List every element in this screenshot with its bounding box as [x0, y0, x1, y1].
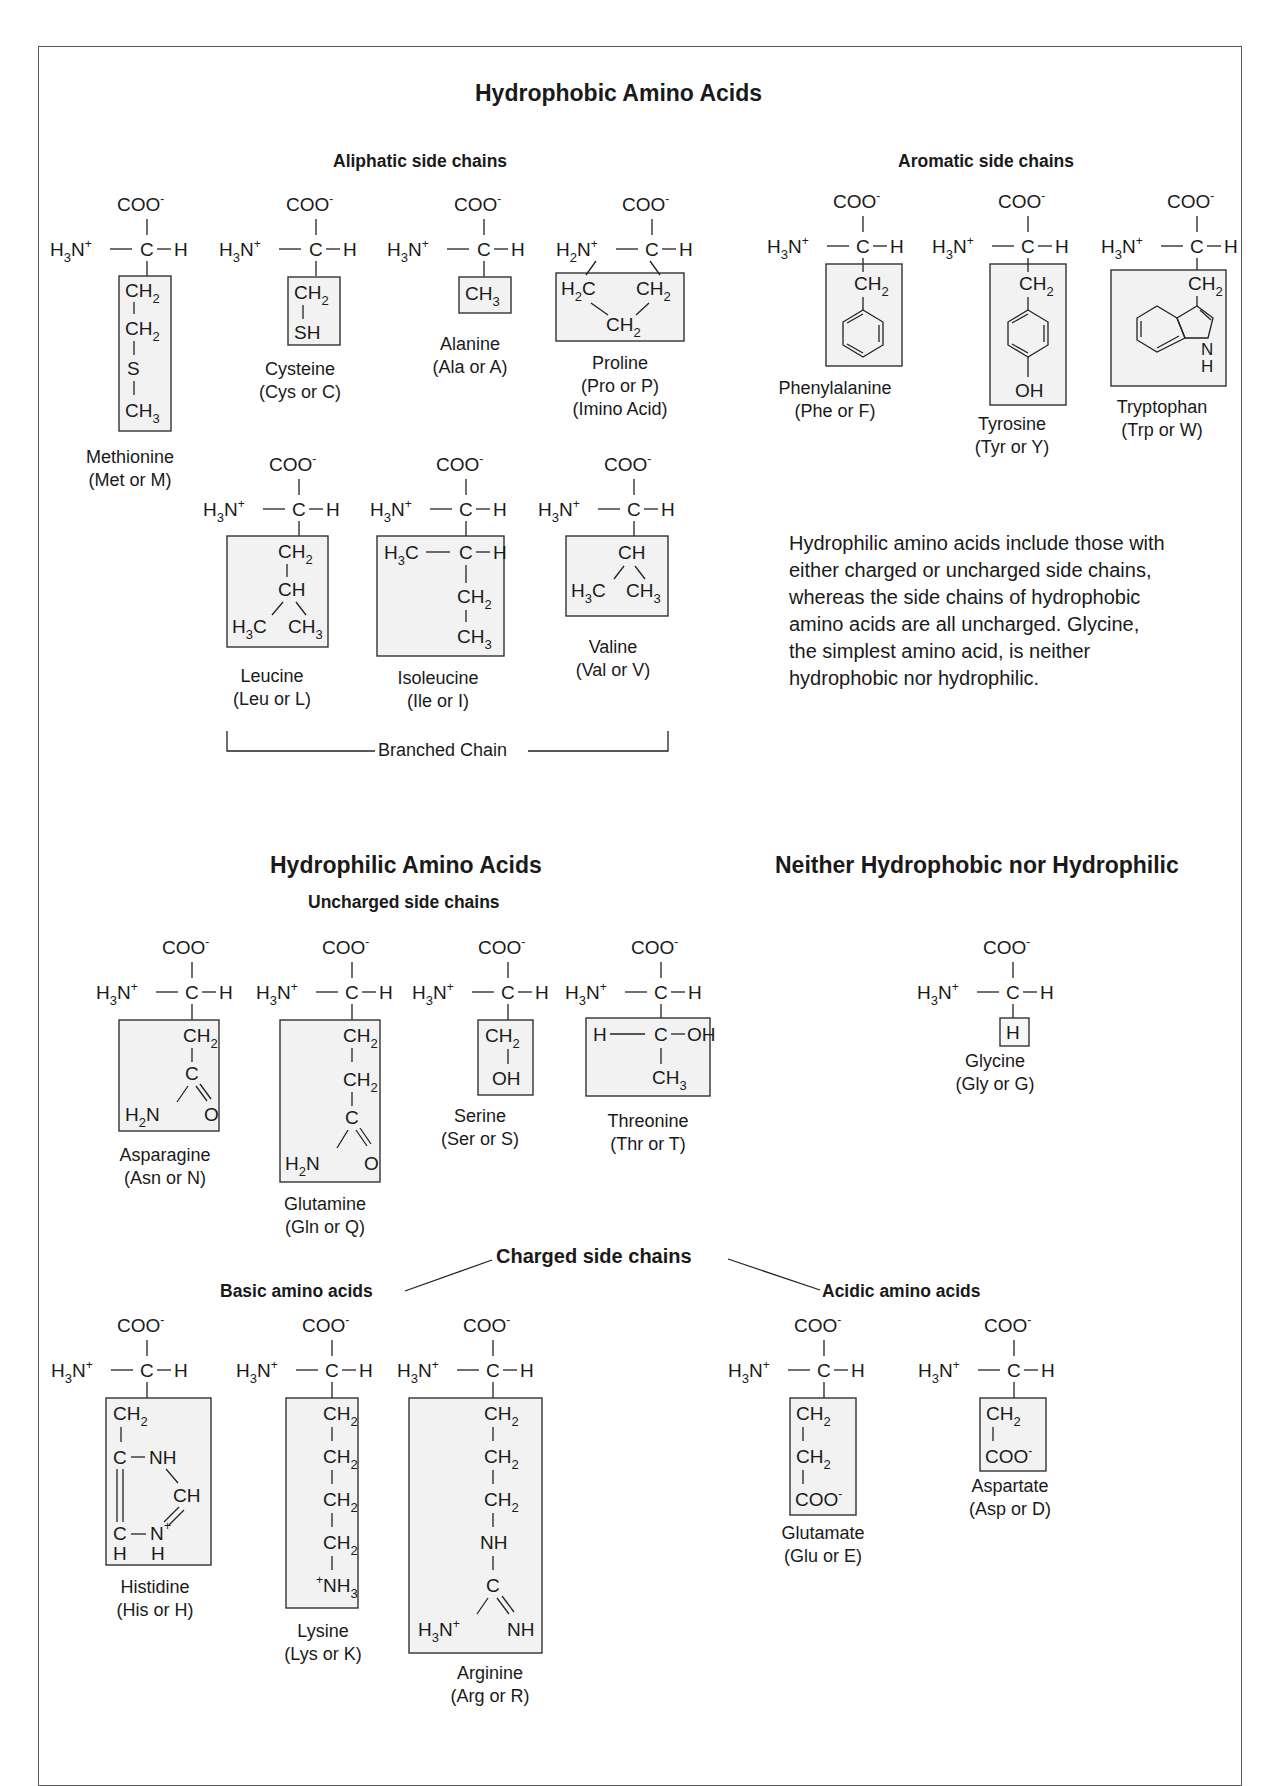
svg-text:C: C: [140, 1360, 154, 1381]
histidine-name: Histidine: [100, 1576, 210, 1599]
svg-text:H: H: [219, 982, 233, 1003]
arginine-label: Arginine (Arg or R): [435, 1662, 545, 1708]
svg-text:H: H: [679, 239, 693, 260]
svg-text:C: C: [185, 982, 199, 1003]
svg-text:H: H: [343, 239, 357, 260]
svg-text:H: H: [1201, 357, 1213, 376]
tryptophan-name: Tryptophan: [1107, 396, 1217, 419]
svg-text:SH: SH: [294, 322, 320, 343]
histidine-label: Histidine (His or H): [100, 1576, 210, 1622]
svg-text:C: C: [1006, 982, 1020, 1003]
isoleucine-abbr: (Ile or I): [383, 690, 493, 713]
svg-text:H: H: [890, 236, 904, 257]
serine-label: Serine (Ser or S): [425, 1105, 535, 1151]
svg-text:H3N+: H3N+: [728, 1358, 770, 1386]
svg-text:C: C: [654, 982, 668, 1003]
cysteine-label: Cysteine (Cys or C): [245, 358, 355, 404]
glycine-abbr: (Gly or G): [940, 1073, 1050, 1096]
svg-text:COO-: COO-: [983, 935, 1030, 958]
glutamine-structure: COO- H3N+ C H CH2 CH2 C H2N O: [256, 938, 406, 1158]
svg-text:C: C: [477, 239, 491, 260]
lysine-structure: COO- H3N+ C H CH2 CH2 CH2 CH2 +NH3: [236, 1316, 386, 1616]
svg-text:C: C: [645, 239, 659, 260]
serine-name: Serine: [425, 1105, 535, 1128]
svg-text:H: H: [1055, 236, 1069, 257]
asparagine-structure: COO- H3N+ C H CH2 C H2N O: [96, 938, 246, 1108]
isoleucine-structure: COO- H3N+ C H H3C C H CH2 CH3: [370, 455, 520, 665]
arginine-abbr: (Arg or R): [435, 1685, 545, 1708]
svg-text:C: C: [113, 1523, 127, 1544]
tyrosine-abbr: (Tyr or Y): [962, 436, 1062, 459]
svg-text:H3N+: H3N+: [203, 497, 245, 525]
alanine-abbr: (Ala or A): [420, 356, 520, 379]
svg-text:C: C: [1190, 236, 1204, 257]
svg-text:H: H: [151, 1543, 165, 1564]
svg-text:C: C: [345, 982, 359, 1003]
svg-text:H3N+: H3N+: [538, 497, 580, 525]
methionine-structure: COO- H3N+ C H CH2 CH2 S CH3: [47, 195, 187, 445]
svg-text:H: H: [493, 499, 507, 520]
leucine-structure: COO- H3N+ C H CH2 CH H3C CH3: [203, 455, 353, 655]
leucine-abbr: (Leu or L): [222, 688, 322, 711]
phenylalanine-abbr: (Phe or F): [770, 400, 900, 423]
alanine-label: Alanine (Ala or A): [420, 333, 520, 379]
isoleucine-name: Isoleucine: [383, 667, 493, 690]
svg-text:H: H: [113, 1543, 127, 1564]
svg-text:H: H: [593, 1024, 607, 1045]
svg-text:COO-: COO-: [454, 192, 501, 215]
svg-text:H: H: [535, 982, 549, 1003]
svg-text:COO-: COO-: [463, 1313, 510, 1336]
glycine-structure: COO- H3N+ C H H: [917, 938, 1067, 1048]
svg-text:H: H: [326, 499, 340, 520]
svg-text:H: H: [851, 1360, 865, 1381]
branched-chain-label: Branched Chain: [378, 739, 507, 762]
svg-text:H3N+: H3N+: [917, 980, 959, 1008]
svg-text:H: H: [359, 1360, 373, 1381]
svg-text:O: O: [364, 1153, 379, 1174]
svg-text:H: H: [688, 982, 702, 1003]
svg-text:COO-: COO-: [302, 1313, 349, 1336]
svg-text:H3N+: H3N+: [50, 237, 92, 265]
glutamate-name: Glutamate: [768, 1522, 878, 1545]
svg-text:COO-: COO-: [833, 189, 880, 212]
svg-text:C: C: [1021, 236, 1035, 257]
svg-text:COO-: COO-: [478, 935, 525, 958]
svg-text:COO-: COO-: [998, 189, 1045, 212]
svg-text:H3N+: H3N+: [236, 1358, 278, 1386]
svg-text:H: H: [174, 1360, 188, 1381]
svg-text:C: C: [345, 1107, 359, 1128]
svg-text:S: S: [127, 358, 140, 379]
svg-text:H3N+: H3N+: [397, 1358, 439, 1386]
proline-structure: COO- H2N+ C H H2C CH2 CH2: [556, 195, 716, 345]
asparagine-abbr: (Asn or N): [110, 1167, 220, 1190]
svg-text:H: H: [661, 499, 675, 520]
histidine-abbr: (His or H): [100, 1599, 210, 1622]
svg-text:H3N+: H3N+: [767, 234, 809, 262]
svg-text:C: C: [486, 1575, 500, 1596]
svg-text:H3N+: H3N+: [51, 1358, 93, 1386]
svg-text:COO-: COO-: [622, 192, 669, 215]
leucine-label: Leucine (Leu or L): [222, 665, 322, 711]
svg-text:C: C: [309, 239, 323, 260]
svg-text:COO-: COO-: [631, 935, 678, 958]
svg-text:H3N+: H3N+: [918, 1358, 960, 1386]
svg-text:H3N+: H3N+: [96, 980, 138, 1008]
glutamate-abbr: (Glu or E): [768, 1545, 878, 1568]
svg-text:H: H: [1224, 236, 1238, 257]
cysteine-abbr: (Cys or C): [245, 381, 355, 404]
glutamine-name: Glutamine: [275, 1193, 375, 1216]
svg-text:NH: NH: [480, 1532, 507, 1553]
histidine-structure: COO- H3N+ C H CH2 C NH CH C N + H H: [51, 1316, 221, 1576]
serine-abbr: (Ser or S): [425, 1128, 535, 1151]
svg-text:H3N+: H3N+: [1101, 234, 1143, 262]
svg-text:COO-: COO-: [322, 935, 369, 958]
svg-text:COO-: COO-: [984, 1313, 1031, 1336]
proline-abbr: (Pro or P): [560, 375, 680, 398]
tryptophan-structure: COO- H3N+ C H CH2 N H: [1101, 192, 1251, 392]
svg-text:COO-: COO-: [286, 192, 333, 215]
svg-text:NH: NH: [507, 1619, 534, 1640]
lysine-abbr: (Lys or K): [273, 1643, 373, 1666]
svg-text:COO-: COO-: [795, 1487, 842, 1510]
tryptophan-label: Tryptophan (Trp or W): [1107, 396, 1217, 442]
svg-text:H3N+: H3N+: [256, 980, 298, 1008]
